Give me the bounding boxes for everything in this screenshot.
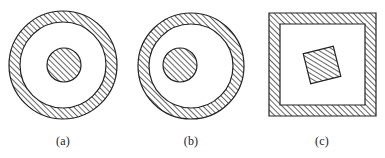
panel-a — [9, 11, 117, 119]
panel-a-label: (a) — [43, 134, 83, 149]
panel-b-label: (b) — [171, 134, 211, 149]
panel-c-label: (c) — [302, 134, 342, 149]
panel-c — [269, 13, 376, 116]
panel-c-inner-rotated-square — [303, 46, 341, 84]
panel-b — [138, 13, 244, 119]
panel-b-inner-circle — [163, 48, 197, 82]
panel-a-inner-circle — [47, 48, 81, 82]
